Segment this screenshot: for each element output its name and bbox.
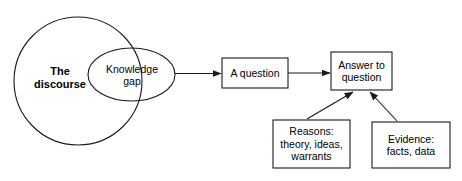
diagram-vector-layer (0, 0, 462, 181)
evidence-box-shape (372, 122, 450, 168)
connector-evidence-to-answer (370, 92, 397, 121)
diagram-canvas: The discourse Knowledge gap A question A… (0, 0, 462, 181)
reasons-box-shape (273, 120, 350, 168)
answer-box-shape (331, 52, 392, 90)
knowledge-gap-ellipse-shape (88, 48, 175, 101)
connector-reasons-to-answer (307, 92, 353, 119)
a-question-box-shape (222, 58, 288, 88)
